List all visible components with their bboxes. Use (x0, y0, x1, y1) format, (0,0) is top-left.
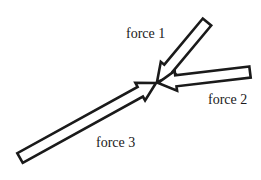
force-1-label: force 1 (126, 26, 165, 41)
force-3-arrow (17, 83, 156, 163)
force-2-label: force 2 (208, 92, 247, 107)
force-3-label: force 3 (96, 135, 135, 150)
force-diagram-svg: force 1 force 2 force 3 (0, 0, 261, 180)
force-diagram: force 1 force 2 force 3 (0, 0, 261, 180)
